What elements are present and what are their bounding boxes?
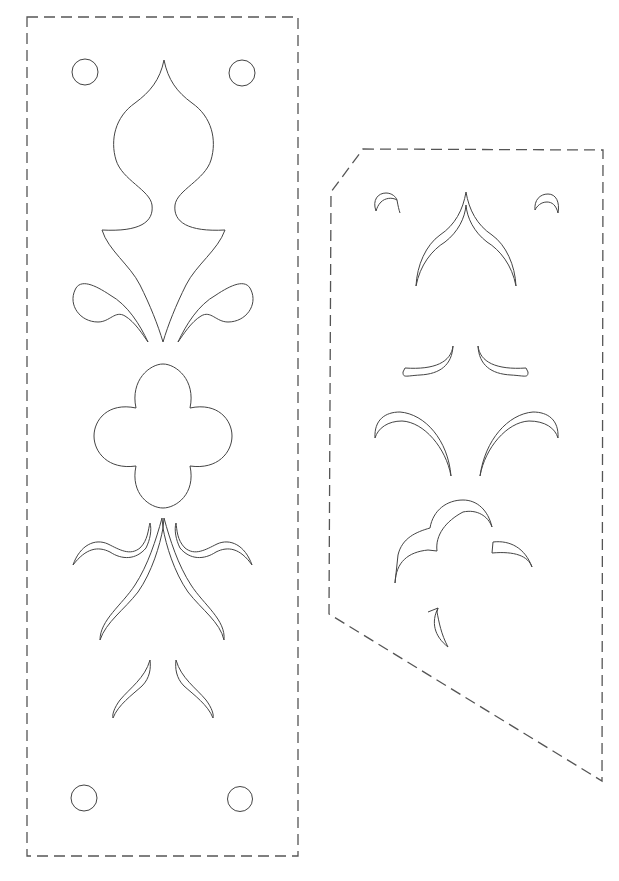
large-arc-right bbox=[480, 412, 558, 476]
arch-cutout bbox=[416, 192, 516, 286]
large-arc-left bbox=[375, 412, 451, 476]
right-panel-border bbox=[329, 149, 603, 781]
cloud-arc-cutout bbox=[395, 500, 492, 583]
wave-swoosh-left bbox=[73, 523, 151, 565]
long-swoosh-right bbox=[163, 518, 224, 640]
hook-cutout bbox=[428, 608, 448, 647]
mounting-hole-bottom-left bbox=[71, 785, 97, 811]
crescent-top-right bbox=[535, 194, 559, 213]
small-swoosh-right bbox=[176, 660, 214, 718]
mounting-hole-bottom-right bbox=[228, 787, 253, 812]
crescent-top-left bbox=[375, 193, 400, 213]
fleur-right-lobe bbox=[178, 284, 253, 342]
mounting-hole-top-left bbox=[72, 59, 98, 85]
small-swoosh-left bbox=[113, 660, 151, 718]
mounting-hole-top-right bbox=[229, 60, 255, 86]
left-panel-border bbox=[27, 17, 298, 856]
long-swoosh-left bbox=[100, 518, 163, 640]
left-panel bbox=[27, 17, 298, 856]
quatrefoil-cutout bbox=[94, 364, 232, 508]
small-arc-right bbox=[492, 542, 532, 567]
wave-swoosh-right bbox=[175, 523, 252, 565]
stencil-sheet bbox=[0, 0, 619, 881]
leaf-right bbox=[478, 346, 528, 376]
fleur-de-lis-cutout bbox=[102, 60, 225, 342]
leaf-left bbox=[403, 346, 453, 376]
right-panel bbox=[329, 149, 603, 781]
fleur-left-lobe bbox=[73, 284, 148, 342]
